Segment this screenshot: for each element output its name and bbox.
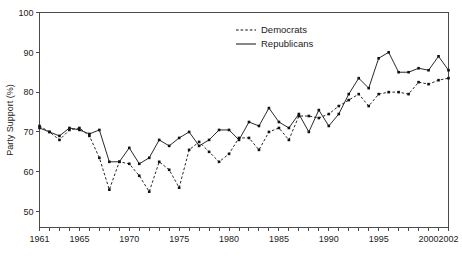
data-point-democrats <box>168 168 171 171</box>
data-point-republicans <box>437 55 440 58</box>
data-point-democrats <box>357 93 360 96</box>
data-point-republicans <box>58 135 61 138</box>
data-point-republicans <box>288 127 291 130</box>
data-point-republicans <box>258 125 261 128</box>
data-point-republicans <box>228 129 231 132</box>
data-point-republicans <box>128 147 131 150</box>
data-point-democrats <box>318 117 321 120</box>
data-point-republicans <box>308 131 311 134</box>
data-point-republicans <box>168 145 171 148</box>
data-point-republicans <box>248 121 251 124</box>
x-tick-label: 2000 <box>419 234 439 244</box>
data-point-democrats <box>407 93 410 96</box>
data-point-republicans <box>218 129 221 132</box>
x-tick-label: 1980 <box>219 234 239 244</box>
data-point-democrats <box>98 157 101 160</box>
x-tick-label: 1965 <box>69 234 89 244</box>
data-point-democrats <box>367 105 370 108</box>
y-tick-label: 70 <box>23 127 33 137</box>
data-point-democrats <box>278 127 281 130</box>
y-axis-tick-labels: 5060708090100 <box>18 8 33 217</box>
data-point-republicans <box>268 107 271 110</box>
data-point-republicans <box>208 139 211 142</box>
data-point-democrats <box>128 163 131 166</box>
x-axis-tick-labels: 1961196519701975198019851990199520002002 <box>29 234 458 244</box>
data-point-democrats <box>447 77 450 80</box>
data-point-republicans <box>78 129 81 132</box>
data-point-republicans <box>188 131 191 134</box>
data-point-democrats <box>427 83 430 86</box>
y-tick-label: 60 <box>23 167 33 177</box>
data-point-republicans <box>68 127 71 130</box>
data-point-republicans <box>148 157 151 160</box>
data-point-republicans <box>158 139 161 142</box>
data-point-republicans <box>337 113 340 116</box>
data-point-republicans <box>138 163 141 166</box>
x-tick-label: 1995 <box>369 234 389 244</box>
data-point-republicans <box>198 145 201 148</box>
data-point-democrats <box>58 139 61 142</box>
data-point-republicans <box>447 69 450 72</box>
data-point-republicans <box>377 57 380 60</box>
chart-figure: 5060708090100 19611965197019751980198519… <box>0 0 462 263</box>
data-point-democrats <box>258 149 261 152</box>
data-point-democrats <box>308 115 311 118</box>
x-axis-minor-ticks <box>40 228 449 232</box>
y-tick-label: 80 <box>23 87 33 97</box>
x-tick-label: 1990 <box>319 234 339 244</box>
data-point-democrats <box>397 91 400 94</box>
legend-label-republicans: Republicans <box>261 38 314 49</box>
data-point-democrats <box>138 174 141 177</box>
y-axis-ticks <box>36 13 40 212</box>
data-point-republicans <box>327 125 330 128</box>
data-point-democrats <box>248 137 251 140</box>
data-point-democrats <box>218 161 221 164</box>
data-point-republicans <box>347 93 350 96</box>
data-point-democrats <box>347 99 350 102</box>
chart-legend: DemocratsRepublicans <box>236 24 314 49</box>
data-point-republicans <box>357 77 360 80</box>
data-point-democrats <box>377 93 380 96</box>
data-point-republicans <box>88 133 91 136</box>
x-tick-label: 1970 <box>119 234 139 244</box>
data-point-republicans <box>407 71 410 74</box>
legend-label-democrats: Democrats <box>261 24 307 35</box>
data-point-democrats <box>268 131 271 134</box>
data-point-democrats <box>198 141 201 144</box>
data-point-republicans <box>278 121 281 124</box>
data-point-republicans <box>427 69 430 72</box>
data-point-republicans <box>318 109 321 112</box>
data-point-democrats <box>178 186 181 189</box>
data-point-democrats <box>288 139 291 142</box>
x-tick-label: 1975 <box>169 234 189 244</box>
data-point-republicans <box>238 139 241 142</box>
data-point-republicans <box>38 127 41 130</box>
axis-frame <box>40 13 449 228</box>
y-tick-label: 50 <box>23 207 33 217</box>
data-point-republicans <box>108 161 111 164</box>
data-point-democrats <box>417 81 420 84</box>
data-point-democrats <box>387 91 390 94</box>
x-tick-label: 1961 <box>29 234 49 244</box>
data-point-republicans <box>118 161 121 164</box>
data-point-republicans <box>298 113 301 116</box>
data-point-republicans <box>178 137 181 140</box>
x-tick-label: 2002 <box>438 234 458 244</box>
data-point-republicans <box>48 131 51 134</box>
data-point-democrats <box>337 105 340 108</box>
data-point-democrats <box>158 161 161 164</box>
series-line-republicans <box>40 52 449 163</box>
data-point-democrats <box>437 79 440 82</box>
y-tick-label: 90 <box>23 48 33 58</box>
data-point-democrats <box>108 188 111 191</box>
data-point-republicans <box>98 129 101 132</box>
data-point-democrats <box>327 113 330 116</box>
axis-frame-path <box>40 13 449 228</box>
y-tick-label: 100 <box>18 8 33 18</box>
data-point-republicans <box>417 67 420 70</box>
data-series-layer <box>38 51 450 193</box>
data-point-republicans <box>367 87 370 90</box>
x-tick-label: 1985 <box>269 234 289 244</box>
data-point-democrats <box>188 149 191 152</box>
data-point-republicans <box>397 71 400 74</box>
